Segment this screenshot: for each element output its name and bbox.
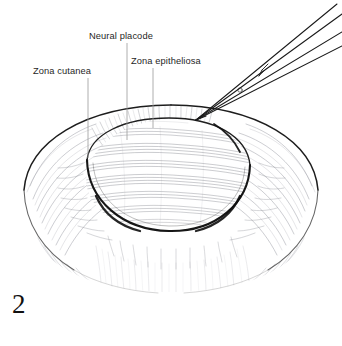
label-zona-epitheliosa: Zona epitheliosa bbox=[131, 56, 201, 66]
figure-container: Zona cutanea Neural placode Zona epithel… bbox=[0, 0, 342, 346]
figure-number: 2 bbox=[12, 291, 26, 318]
label-neural-placode: Neural placode bbox=[89, 31, 153, 41]
myelomeningocele-illustration bbox=[0, 0, 342, 346]
label-zona-cutanea: Zona cutanea bbox=[33, 66, 91, 76]
